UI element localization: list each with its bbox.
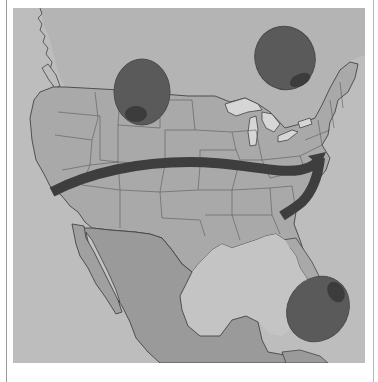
frame-left-rule (6, 0, 7, 382)
north-america-map (13, 8, 365, 363)
map-illustration: Grayscale illustrated map of the United … (13, 8, 365, 363)
olive-north-central (114, 59, 170, 125)
olive-pimento (125, 106, 147, 122)
frame-right-rule (373, 0, 374, 382)
